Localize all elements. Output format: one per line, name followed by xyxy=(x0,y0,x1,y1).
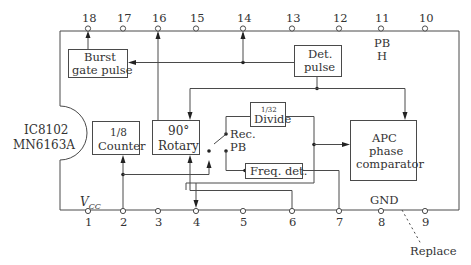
arrow-up-icon xyxy=(188,155,193,163)
arrow-down-icon xyxy=(194,200,199,208)
pin-7 xyxy=(336,208,341,213)
pin-16 xyxy=(155,26,160,31)
pin-18-label: 18 xyxy=(82,11,97,25)
arrow-up-icon xyxy=(86,31,91,38)
pin-12-label: 12 xyxy=(333,11,348,25)
pin-8-label: 8 xyxy=(378,215,385,229)
arrow-up-icon xyxy=(156,31,161,39)
replace-leader xyxy=(402,210,421,244)
pin-13-label: 13 xyxy=(286,11,301,25)
det-pulse-label-2: pulse xyxy=(304,60,335,74)
pin-15-label: 15 xyxy=(190,11,205,25)
top-pins: 18 17 16 15 14 13 12 11 10 xyxy=(82,11,434,31)
arrow-down-icon xyxy=(403,112,408,120)
switch-contact xyxy=(207,149,211,153)
pin-17-label: 17 xyxy=(117,11,132,25)
chip-part: MN6163A xyxy=(13,138,75,152)
apc-label-2: phase xyxy=(369,144,404,158)
pin-2 xyxy=(120,208,125,213)
switch-lever xyxy=(214,135,225,144)
pin-13 xyxy=(289,26,294,31)
pb-h-label-line1: PB xyxy=(374,36,390,50)
pin-9-label: 9 xyxy=(422,215,429,229)
switch-rec-label: Rec. xyxy=(230,127,256,141)
chip-ref: IC8102 xyxy=(24,123,68,137)
arrow-up-icon xyxy=(121,155,126,163)
arrow-down-icon xyxy=(188,112,193,120)
pin-6 xyxy=(289,208,294,213)
pin-2-label: 2 xyxy=(120,215,127,229)
arrow-up-icon xyxy=(241,31,246,39)
pin-4-label: 4 xyxy=(193,215,200,229)
pin-17 xyxy=(120,26,125,31)
pin-3 xyxy=(155,208,160,213)
divide-label-2: Divide xyxy=(254,112,291,126)
pin-4 xyxy=(193,208,198,213)
pin-8 xyxy=(378,208,383,213)
pin-14-label: 14 xyxy=(237,11,252,25)
apc-label-3: comparator xyxy=(356,157,424,171)
arrow-right-icon xyxy=(342,142,350,147)
counter-label-2: Counter xyxy=(98,139,146,153)
counter-label-1: 1/8 xyxy=(110,126,127,138)
block-diagram: IC8102 MN6163A 18 17 16 15 14 13 12 11 1… xyxy=(0,0,471,265)
burst-gate-label-1: Burst xyxy=(84,50,116,64)
vcc-label: VCC xyxy=(80,195,101,211)
pin-14 xyxy=(240,26,245,31)
pin-6-label: 6 xyxy=(289,215,296,229)
burst-gate-label-2: gate pulse xyxy=(72,63,133,77)
bottom-pins: 1 2 3 4 5 6 7 8 9 xyxy=(85,208,429,229)
rotary-label-1: 90° xyxy=(168,124,189,138)
pin-9 xyxy=(422,208,427,213)
pin-12 xyxy=(336,26,341,31)
wire-pin2-to-switch xyxy=(123,165,209,175)
wire-freqdet-to-pin7 xyxy=(302,171,339,209)
pin-11-label: 11 xyxy=(375,11,390,25)
pin-10-label: 10 xyxy=(419,11,434,25)
wire-bus-to-rotary xyxy=(190,89,405,116)
pin-5-label: 5 xyxy=(240,215,247,229)
pin-1-label: 1 xyxy=(85,215,92,229)
pin-5 xyxy=(240,208,245,213)
pin-15 xyxy=(193,26,198,31)
rotary-label-2: Rotary xyxy=(158,139,199,153)
pin-18 xyxy=(85,26,90,31)
apc-label-1: APC xyxy=(371,131,397,145)
switch-pb-label: PB xyxy=(230,140,246,154)
gnd-label: GND xyxy=(370,193,398,207)
arrow-up-icon xyxy=(207,160,212,168)
pin-11 xyxy=(378,26,383,31)
pin-3-label: 3 xyxy=(155,215,162,229)
replace-label: Replace xyxy=(410,244,457,258)
pin-7-label: 7 xyxy=(336,215,343,229)
pb-h-label-line2: H xyxy=(377,49,387,63)
pin-10 xyxy=(422,26,427,31)
pin-16-label: 16 xyxy=(152,11,167,25)
freq-det-label: Freq. det. xyxy=(250,164,307,178)
det-pulse-label-1: Det. xyxy=(308,47,332,61)
